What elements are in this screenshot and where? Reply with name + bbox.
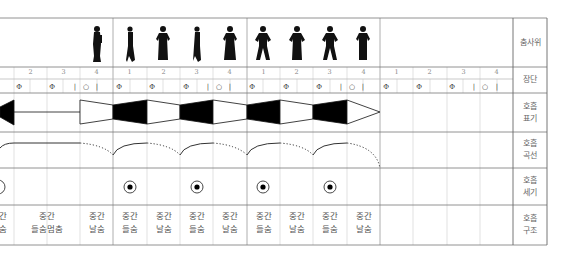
- row-label-breath-strength: 호흡세기: [513, 168, 547, 205]
- breath-curves: [0, 143, 380, 168]
- svg-text:|: |: [96, 83, 98, 91]
- svg-text:Φ: Φ: [16, 83, 22, 91]
- svg-text:|: |: [340, 83, 342, 91]
- row-label-jangdan: 장단: [513, 67, 547, 93]
- breath-arrows: [0, 100, 380, 125]
- beat-number: 4: [80, 68, 113, 76]
- breath-structure-cell: 중간날숨: [147, 210, 180, 236]
- svg-text:○: ○: [83, 83, 89, 91]
- breath-structure-cell: 중간들숨: [247, 210, 280, 236]
- beat-number: 2: [413, 68, 446, 76]
- svg-text:○: ○: [349, 83, 355, 91]
- row-label-breath-notation: 호흡표기: [513, 93, 547, 132]
- beat-number: 2: [147, 68, 180, 76]
- strength-marks: [0, 180, 336, 194]
- beat-number: 2: [280, 68, 313, 76]
- breath-structure-cell: 중간날숨: [347, 210, 380, 236]
- svg-text:Φ: Φ: [283, 83, 289, 91]
- beat-number: 1: [113, 68, 146, 76]
- jangdan-symbols: ΦΦ |○| ΦΦΦ |○| ΦΦΦ |○| ΦΦΦ |○|: [16, 83, 498, 91]
- breath-structure-cell: 중간들숨: [113, 210, 146, 236]
- beat-number: 3: [47, 68, 80, 76]
- svg-text:|: |: [207, 83, 209, 91]
- row-label-breath-curve: 호흡곡선: [513, 132, 547, 168]
- beat-number: 3: [180, 68, 213, 76]
- row-label-breath-structure: 호흡구조: [513, 205, 547, 245]
- svg-text:○: ○: [482, 83, 488, 91]
- svg-text:Φ: Φ: [316, 83, 322, 91]
- svg-text:|: |: [74, 83, 76, 91]
- beat-number: 4: [480, 68, 513, 76]
- svg-text:Φ: Φ: [183, 83, 189, 91]
- svg-text:Φ: Φ: [249, 83, 255, 91]
- breath-structure-cell: 중간들숨: [313, 210, 346, 236]
- breath-structure-cell: 중간들숨멈춤: [14, 210, 80, 236]
- svg-text:|: |: [473, 83, 475, 91]
- breath-structure-cell: 중간날숨: [213, 210, 246, 236]
- beat-number: 3: [447, 68, 480, 76]
- breath-structure-cell: 중간들숨: [180, 210, 213, 236]
- beat-number: 2: [14, 68, 47, 76]
- beat-number: 3: [313, 68, 346, 76]
- svg-text:Φ: Φ: [449, 83, 455, 91]
- breath-structure-cell: 중간날숨: [280, 210, 313, 236]
- beat-number: 4: [347, 68, 380, 76]
- breath-notation-diagram: ΦΦ |○| ΦΦΦ |○| ΦΦΦ |○| ΦΦΦ |○|: [0, 0, 573, 258]
- svg-text:○: ○: [216, 83, 222, 91]
- svg-text:|: |: [496, 83, 498, 91]
- svg-text:Φ: Φ: [116, 83, 122, 91]
- svg-text:Φ: Φ: [416, 83, 422, 91]
- beat-number: 1: [380, 68, 413, 76]
- breath-structure-cell: 중간날숨: [80, 210, 113, 236]
- svg-text:|: |: [229, 83, 231, 91]
- svg-text:|: |: [362, 83, 364, 91]
- svg-text:Φ: Φ: [49, 83, 55, 91]
- dancer-figures: [93, 26, 370, 62]
- beat-number: 4: [213, 68, 246, 76]
- svg-text:Φ: Φ: [149, 83, 155, 91]
- beat-number: 1: [247, 68, 280, 76]
- row-label-dance: 춤사위: [513, 18, 547, 67]
- svg-text:Φ: Φ: [383, 83, 389, 91]
